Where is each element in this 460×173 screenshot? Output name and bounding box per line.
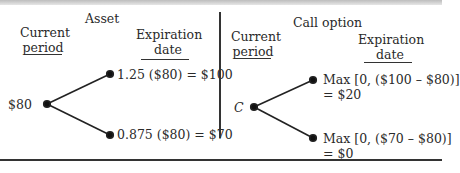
option-up-node <box>310 77 317 84</box>
label-line: Expiration <box>136 27 200 42</box>
option-title: Call option <box>293 15 362 30</box>
formula-line: Max [0, ($70 – $80)] <box>323 131 452 146</box>
asset-current-period-label: Current period <box>20 25 66 55</box>
label-line: Expiration <box>358 32 422 47</box>
label-line: Current <box>20 25 66 40</box>
panel-divider <box>219 12 221 138</box>
asset-down-outcome: 0.875 ($80) = $70 <box>117 127 233 142</box>
asset-current-node <box>44 101 51 108</box>
option-expiration-underline <box>364 62 412 63</box>
asset-down-node <box>107 132 114 139</box>
asset-up-node <box>107 71 114 78</box>
label-line: date <box>136 42 200 57</box>
label-line: period <box>20 40 66 55</box>
label-line: Current <box>231 29 275 44</box>
asset-start-value: $80 <box>8 97 32 112</box>
option-current-node <box>251 104 258 111</box>
label-line: date <box>358 47 422 62</box>
option-up-outcome: Max [0, ($100 – $80)] = $20 <box>323 72 460 102</box>
asset-expiration-underline <box>141 59 189 60</box>
option-down-node <box>310 135 317 142</box>
bottom-rule <box>0 159 442 161</box>
formula-line: Max [0, ($100 – $80)] <box>323 72 460 87</box>
option-expiration-label: Expiration date <box>358 32 422 62</box>
asset-title: Asset <box>85 11 119 26</box>
label-line: period <box>231 44 275 59</box>
asset-expiration-label: Expiration date <box>136 27 200 57</box>
option-current-underline <box>235 58 271 59</box>
asset-current-underline <box>25 54 62 55</box>
result-line: = $20 <box>323 87 460 102</box>
option-current-period-label: Current period <box>231 29 275 59</box>
option-start-value: C <box>234 100 244 115</box>
option-down-outcome: Max [0, ($70 – $80)] = $0 <box>323 131 452 161</box>
asset-up-outcome: 1.25 ($80) = $100 <box>117 67 233 82</box>
